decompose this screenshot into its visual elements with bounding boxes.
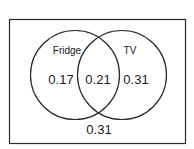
outside-value: 0.31	[86, 123, 111, 136]
tv-only-value: 0.31	[123, 73, 148, 86]
fridge-set-label: Fridge	[53, 46, 81, 56]
tv-set-label: TV	[124, 46, 137, 56]
intersection-value: 0.21	[85, 73, 110, 86]
fridge-only-value: 0.17	[48, 73, 73, 86]
